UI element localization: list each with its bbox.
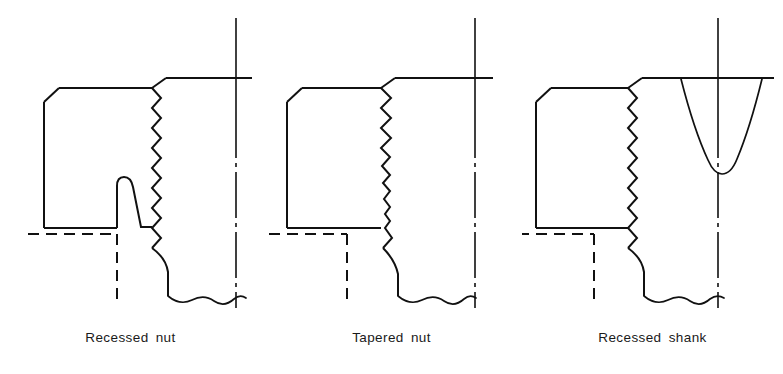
thread-runout-curve: [383, 248, 398, 296]
nut-to-shank-chamfer-line: [381, 78, 395, 88]
panel-caption-tapered-nut: Tapered nut: [261, 330, 522, 345]
break-line-wavy-icon: [398, 296, 476, 304]
tapered-nut-drawing: [261, 0, 522, 320]
break-line-wavy-icon: [168, 296, 246, 304]
conical-recess-profile: [681, 79, 762, 174]
nut-chamfer-line: [287, 88, 302, 102]
thread-runout-curve: [152, 248, 168, 296]
recessed-nut-drawing: [0, 0, 261, 320]
technical-drawing-figure: Recessed nut Tapered nut: [0, 0, 783, 374]
diagram-panel-recessed-nut: Recessed nut: [0, 0, 261, 374]
nut-chamfer-line: [536, 88, 551, 102]
tapered-thread-profile-zigzag: [381, 88, 392, 248]
recess-bump-profile: [117, 177, 152, 228]
panel-caption-recessed-shank: Recessed shank: [522, 330, 783, 345]
diagram-panel-recessed-shank: Recessed shank: [522, 0, 783, 374]
diagram-panel-tapered-nut: Tapered nut: [261, 0, 522, 374]
recessed-shank-drawing: [522, 0, 783, 320]
nut-to-shank-chamfer-line: [628, 78, 642, 88]
nut-to-shank-chamfer-line: [152, 78, 166, 88]
thread-runout-curve: [628, 248, 644, 296]
panel-caption-recessed-nut: Recessed nut: [0, 330, 261, 345]
thread-profile-zigzag: [152, 88, 161, 248]
thread-profile-zigzag: [628, 88, 637, 248]
break-line-wavy-icon: [644, 296, 724, 304]
nut-chamfer-line: [44, 88, 59, 102]
